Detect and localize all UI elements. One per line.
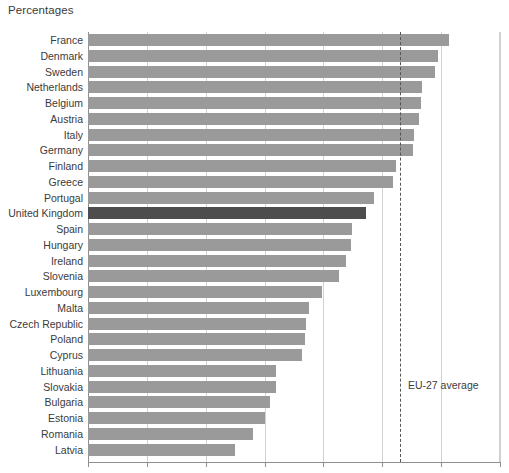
- bar[interactable]: [88, 97, 421, 109]
- chart-title: Percentages: [8, 4, 74, 16]
- category-label: Luxembourg: [0, 286, 83, 298]
- category-label: Sweden: [0, 66, 83, 78]
- category-label: Austria: [0, 113, 83, 125]
- x-axis-tick: [382, 462, 383, 467]
- bar[interactable]: [88, 207, 366, 219]
- eu-average-label: EU-27 average: [408, 379, 479, 391]
- category-label: France: [0, 34, 83, 46]
- bar[interactable]: [88, 50, 438, 62]
- bar[interactable]: [88, 176, 393, 188]
- bar[interactable]: [88, 286, 322, 298]
- bar-chart: Percentages FranceDenmarkSwedenNetherlan…: [0, 0, 509, 473]
- category-label: Portugal: [0, 192, 83, 204]
- category-label: Netherlands: [0, 81, 83, 93]
- eu-average-line: [400, 32, 401, 462]
- category-label: Belgium: [0, 97, 83, 109]
- x-axis-tick: [206, 462, 207, 467]
- category-label: Romania: [0, 428, 83, 440]
- category-label: Spain: [0, 223, 83, 235]
- category-label: Germany: [0, 144, 83, 156]
- category-label: Estonia: [0, 412, 83, 424]
- bar[interactable]: [88, 396, 270, 408]
- category-label: Denmark: [0, 50, 83, 62]
- category-label: Latvia: [0, 444, 83, 456]
- category-label: Hungary: [0, 239, 83, 251]
- category-label: United Kingdom: [0, 207, 83, 219]
- category-label: Slovakia: [0, 381, 83, 393]
- bar[interactable]: [88, 223, 352, 235]
- bar[interactable]: [88, 34, 449, 46]
- bar[interactable]: [88, 428, 253, 440]
- x-axis-tick: [88, 462, 89, 467]
- x-axis-tick: [147, 462, 148, 467]
- bar[interactable]: [88, 255, 346, 267]
- bar[interactable]: [88, 381, 276, 393]
- bar[interactable]: [88, 270, 339, 282]
- category-label: Ireland: [0, 255, 83, 267]
- category-label: Malta: [0, 302, 83, 314]
- category-label: Italy: [0, 129, 83, 141]
- bar[interactable]: [88, 160, 396, 172]
- category-label: Poland: [0, 333, 83, 345]
- bar[interactable]: [88, 412, 265, 424]
- bar[interactable]: [88, 239, 351, 251]
- bar[interactable]: [88, 144, 413, 156]
- bar[interactable]: [88, 365, 276, 377]
- x-axis-line: [88, 462, 500, 463]
- bar[interactable]: [88, 333, 305, 345]
- bar[interactable]: [88, 444, 235, 456]
- x-axis-tick: [323, 462, 324, 467]
- x-axis-tick: [500, 462, 501, 467]
- bar[interactable]: [88, 129, 414, 141]
- category-label: Greece: [0, 176, 83, 188]
- bar-row: [88, 442, 500, 460]
- category-label: Finland: [0, 160, 83, 172]
- bar[interactable]: [88, 113, 419, 125]
- category-label: Czech Republic: [0, 318, 83, 330]
- bar[interactable]: [88, 318, 306, 330]
- bar[interactable]: [88, 192, 374, 204]
- bar[interactable]: [88, 66, 435, 78]
- category-label: Bulgaria: [0, 396, 83, 408]
- bar[interactable]: [88, 349, 302, 361]
- category-label: Slovenia: [0, 270, 83, 282]
- category-label: Cyprus: [0, 349, 83, 361]
- bar[interactable]: [88, 81, 422, 93]
- x-axis-tick: [265, 462, 266, 467]
- bar[interactable]: [88, 302, 309, 314]
- x-axis-tick: [441, 462, 442, 467]
- plot-area: [88, 32, 500, 462]
- gridline: [500, 32, 501, 462]
- category-label: Lithuania: [0, 365, 83, 377]
